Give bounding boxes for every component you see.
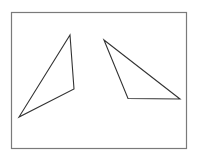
frame-border [12,13,187,149]
diagram-canvas [0,0,198,160]
